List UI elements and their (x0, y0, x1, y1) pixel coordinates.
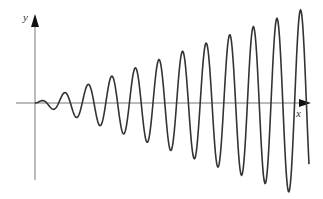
x-axis-label: x (295, 107, 301, 119)
chart-canvas: y x (0, 0, 323, 199)
x-axis-arrow-icon (299, 99, 311, 107)
oscillating-curve (35, 10, 309, 192)
y-axis-label: y (22, 11, 28, 23)
y-axis-arrow-icon (31, 14, 39, 27)
